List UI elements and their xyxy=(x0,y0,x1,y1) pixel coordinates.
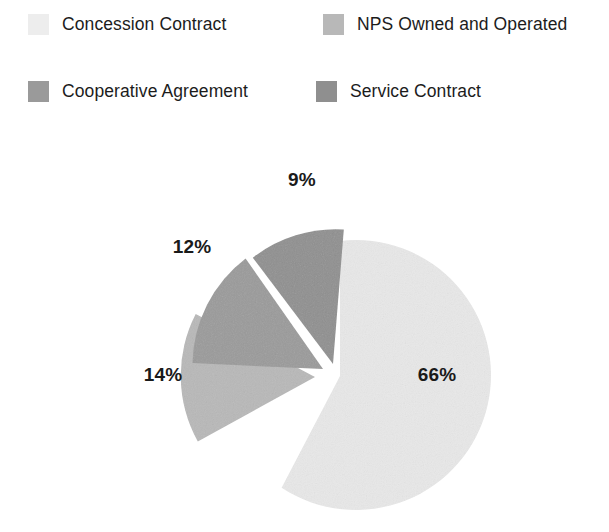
legend-swatch-nps-owned-and-operated xyxy=(323,14,344,35)
legend-swatch-cooperative-agreement xyxy=(28,81,49,102)
legend-item-nps-owned-and-operated[interactable]: NPS Owned and Operated xyxy=(323,14,567,35)
pie-chart-figure: Concession Contract NPS Owned and Operat… xyxy=(0,0,609,532)
legend-label-nps-owned-and-operated: NPS Owned and Operated xyxy=(357,14,567,35)
legend-label-service-contract: Service Contract xyxy=(350,81,481,102)
legend-label-concession-contract: Concession Contract xyxy=(62,14,226,35)
chart-legend: Concession Contract NPS Owned and Operat… xyxy=(0,0,609,130)
pie-label-cooperative-agreement: 12% xyxy=(173,236,212,258)
legend-item-service-contract[interactable]: Service Contract xyxy=(316,81,481,102)
pie-label-nps-owned-and-operated: 14% xyxy=(144,364,183,386)
legend-item-concession-contract[interactable]: Concession Contract xyxy=(28,14,226,35)
pie-label-concession-contract: 66% xyxy=(418,364,457,386)
pie-label-service-contract: 9% xyxy=(288,169,316,191)
legend-label-cooperative-agreement: Cooperative Agreement xyxy=(62,81,248,102)
pie-plot-area: 66% 14% 12% 9% xyxy=(0,130,609,532)
legend-swatch-concession-contract xyxy=(28,14,49,35)
legend-swatch-service-contract xyxy=(316,81,337,102)
legend-item-cooperative-agreement[interactable]: Cooperative Agreement xyxy=(28,81,248,102)
